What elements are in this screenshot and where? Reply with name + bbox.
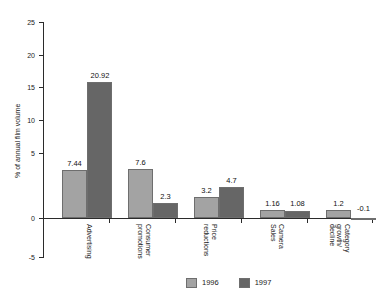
category-label-advertising: Advertising	[85, 224, 93, 259]
legend-label-1997: 1997	[255, 279, 272, 287]
bar-consumer-promotions-1997	[153, 203, 178, 218]
bar-camera-sales-1997	[285, 211, 310, 218]
bar-value-price-reductions-1996: 3.2	[191, 187, 222, 195]
bar-value-camera-sales-1997: 1.08	[281, 200, 314, 208]
category-label-category-growth: Category growth/ decline	[328, 224, 351, 252]
legend-label-1996: 1996	[202, 279, 219, 287]
bar-price-reductions-1996	[194, 197, 219, 218]
bar-advertising-1996	[62, 170, 87, 218]
bar-camera-sales-1996	[260, 210, 285, 218]
bar-value-advertising-1996: 7.44	[59, 160, 90, 168]
bar-value-category-growth-1997: -0.1	[348, 205, 379, 213]
y-axis-title: % of annual film volume	[14, 104, 22, 178]
x-sep-tick-4	[307, 218, 308, 223]
bar-value-consumer-promotions-1996: 7.6	[125, 159, 156, 167]
x-axis-line	[43, 218, 373, 219]
bar-value-consumer-promotions-1997: 2.3	[150, 193, 181, 201]
y-tick-mark-neg5	[39, 257, 43, 258]
legend-swatch-1996-icon	[186, 278, 197, 288]
bar-advertising-1997	[87, 82, 112, 218]
y-tick-mark-25	[39, 22, 43, 23]
y-tick-label-25: 25	[17, 19, 35, 26]
bar-value-price-reductions-1997: 4.7	[216, 177, 247, 185]
bar-category-growth-1997	[351, 218, 376, 220]
y-tick-mark-5	[39, 153, 43, 154]
legend-item-1997: 1997	[239, 278, 272, 288]
y-tick-label-15: 15	[17, 84, 35, 91]
category-label-consumer-promotions: Consumer promotions	[137, 224, 152, 259]
bar-value-advertising-1997: 20.92	[83, 72, 117, 80]
bar-price-reductions-1997	[219, 187, 244, 218]
x-sep-tick-1	[109, 218, 110, 223]
chart-legend: 1996 1997	[186, 278, 285, 288]
x-sep-tick-2	[175, 218, 176, 223]
x-sep-tick-0	[43, 218, 44, 223]
category-label-camera-sales: Camera Sales	[270, 224, 285, 249]
y-tick-label-neg5: -5	[17, 254, 35, 261]
y-tick-mark-15	[39, 87, 43, 88]
category-label-price-reductions: Price reductions	[203, 224, 218, 256]
y-tick-mark-10	[39, 120, 43, 121]
bar-chart: 25 20 15 10 5 0 -5 % of annual film volu…	[0, 0, 387, 304]
y-tick-label-20: 20	[17, 52, 35, 59]
legend-item-1996: 1996	[186, 278, 219, 288]
legend-swatch-1997-icon	[239, 278, 250, 288]
y-tick-mark-20	[39, 55, 43, 56]
y-tick-label-0: 0	[17, 215, 35, 222]
x-sep-tick-3	[241, 218, 242, 223]
